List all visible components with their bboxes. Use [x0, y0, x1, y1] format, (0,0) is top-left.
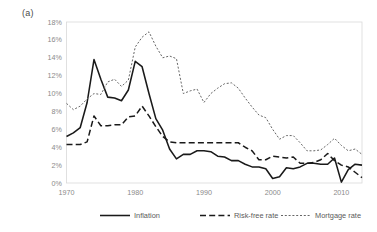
x-tick-label: 2010: [333, 188, 349, 197]
series-line-risk-free-rate: [67, 106, 363, 178]
y-tick-label: 8%: [52, 107, 63, 116]
y-tick-label: 6%: [52, 125, 63, 134]
legend-item-risk-free-rate[interactable]: Risk-free rate: [200, 211, 278, 220]
legend-label: Risk-free rate: [234, 211, 278, 220]
plot-frame: [67, 22, 363, 183]
y-tick-label: 18%: [48, 18, 63, 27]
figure-panel-a: (a) 0%2%4%6%8%10%12%14%16%18% 1970198019…: [0, 0, 377, 232]
x-axis-ticks: 19701980199020002010: [59, 188, 350, 197]
legend-label: Mortgage rate: [315, 211, 361, 220]
x-tick-label: 1970: [59, 188, 75, 197]
x-tick-label: 1980: [127, 188, 143, 197]
y-tick-label: 12%: [48, 71, 63, 80]
y-tick-label: 10%: [48, 89, 63, 98]
series-lines: [67, 32, 363, 182]
y-tick-label: 0%: [52, 179, 63, 188]
y-tick-label: 14%: [48, 53, 63, 62]
series-line-mortgage-rate: [67, 32, 363, 155]
x-tick-label: 1990: [196, 188, 212, 197]
line-chart: 0%2%4%6%8%10%12%14%16%18% 19701980199020…: [0, 0, 377, 232]
legend-item-inflation[interactable]: Inflation: [100, 211, 160, 220]
legend-label: Inflation: [134, 211, 160, 220]
legend-item-mortgage-rate[interactable]: Mortgage rate: [281, 211, 361, 220]
x-tick-label: 2000: [265, 188, 281, 197]
y-tick-label: 16%: [48, 35, 63, 44]
chart-legend: InflationRisk-free rateMortgage rate: [100, 211, 361, 220]
y-tick-label: 2%: [52, 161, 63, 170]
y-tick-label: 4%: [52, 143, 63, 152]
series-line-inflation: [67, 60, 363, 183]
y-axis-ticks: 0%2%4%6%8%10%12%14%16%18%: [48, 18, 63, 188]
